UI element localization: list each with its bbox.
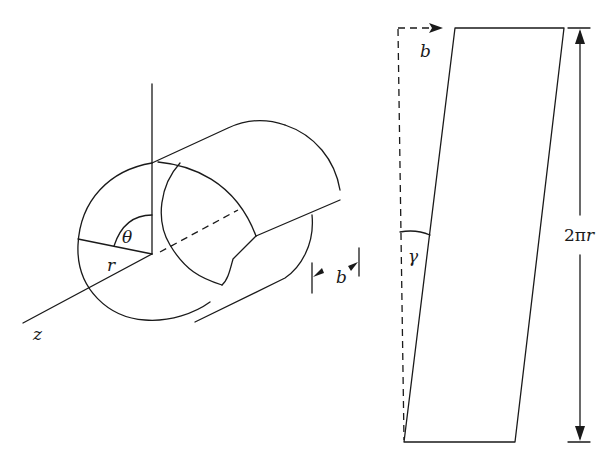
radius-label: r	[107, 255, 116, 275]
step-edge	[222, 236, 256, 285]
height-label: 2πr	[564, 225, 595, 245]
theta-arc	[114, 215, 152, 246]
theta-label: θ	[122, 227, 132, 247]
burgers-label-left: b	[336, 267, 347, 287]
front-end-circle	[78, 163, 210, 320]
burgers-arrow-left-icon	[313, 268, 324, 277]
z-axis-label: z	[32, 324, 43, 344]
gamma-label: γ	[408, 246, 419, 266]
burgers-label-right: b	[420, 41, 431, 61]
upper-step-line	[256, 200, 340, 236]
reference-dashed-line	[398, 29, 404, 440]
top-generator-line	[152, 121, 285, 163]
height-arrow-up-icon	[575, 29, 585, 44]
height-arrow-down-icon	[575, 426, 585, 441]
inner-section-left-arc	[161, 163, 222, 285]
sheared-parallelogram	[404, 28, 564, 442]
dislocation-cylinder-diagram: θ r z b b γ 2πr	[0, 0, 614, 466]
burgers-arrow-top-icon	[429, 23, 443, 33]
z-axis	[23, 254, 152, 323]
gamma-arc	[400, 231, 430, 235]
radius-line	[78, 239, 152, 254]
center-axis-dashed	[160, 210, 238, 252]
height-label-prefix: 2π	[564, 225, 586, 245]
cylinder-figure: θ r z b	[23, 84, 359, 344]
burgers-arrow-right-icon	[348, 262, 358, 271]
unrolled-sheet-figure: b γ 2πr	[398, 23, 595, 442]
back-end-arc	[285, 125, 340, 190]
height-label-var: r	[586, 225, 595, 245]
